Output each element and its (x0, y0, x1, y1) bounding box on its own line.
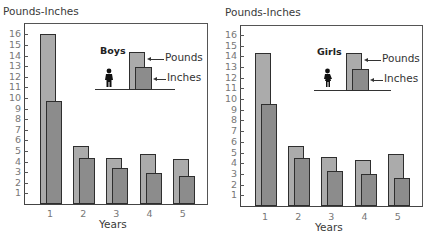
x-tick-label: 1 (258, 211, 272, 222)
y-tick (240, 67, 244, 68)
y-tick-label: 8 (223, 115, 237, 125)
y-tick-label: 2 (223, 180, 237, 190)
y-tick-label: 14 (223, 51, 237, 61)
y-tick (24, 183, 28, 184)
y-tick (240, 120, 244, 121)
y-tick (24, 109, 28, 110)
y-tick (240, 131, 244, 132)
y-tick (24, 162, 28, 163)
legend-title: Boys (100, 45, 126, 56)
y-tick (240, 99, 244, 100)
legend-pounds-arrow (150, 59, 164, 60)
y-tick (240, 56, 244, 57)
y-tick-label: 12 (223, 73, 237, 83)
y-tick (24, 34, 28, 35)
bar-inches (146, 173, 162, 204)
y-tick-label: 7 (7, 125, 21, 135)
y-tick-label: 12 (7, 72, 21, 82)
x-tick-label: 4 (143, 208, 157, 219)
legend-pounds-label: Pounds (382, 52, 420, 64)
y-tick (24, 45, 28, 46)
legend-inches-label: Inches (384, 72, 418, 84)
bar-inches (327, 171, 343, 206)
y-tick (24, 172, 28, 173)
x-axis-title: Years (315, 221, 343, 233)
y-tick (240, 78, 244, 79)
y-tick-label: 10 (7, 93, 21, 103)
bar-inches (394, 178, 410, 206)
bar-inches (361, 174, 377, 206)
y-tick (24, 140, 28, 141)
y-tick-label: 10 (223, 94, 237, 104)
legend-pounds-label: Pounds (165, 51, 203, 63)
legend-pounds-arrow (367, 60, 381, 61)
y-tick (24, 66, 28, 67)
bar-inches (261, 104, 277, 206)
legend-title: Girls (317, 46, 342, 57)
y-tick (24, 77, 28, 78)
y-tick (24, 130, 28, 131)
x-tick-label: 2 (291, 211, 305, 222)
y-tick-label: 11 (223, 83, 237, 93)
y-tick (240, 174, 244, 175)
y-tick-label: 1 (7, 188, 21, 198)
y-tick (240, 35, 244, 36)
legend-inches-arrow (156, 79, 166, 80)
x-tick-label: 2 (76, 208, 90, 219)
y-tick-label: 16 (223, 30, 237, 40)
y-tick (240, 195, 244, 196)
y-tick-label: 3 (223, 169, 237, 179)
y-tick-label: 13 (223, 62, 237, 72)
y-tick-label: 5 (223, 148, 237, 158)
boys-chart-panel: Pounds-Inches 12345678910111213141516 12… (0, 0, 215, 238)
x-tick-label: 1 (43, 208, 57, 219)
x-tick-label: 5 (391, 211, 405, 222)
y-axis-title: Pounds-Inches (3, 5, 79, 17)
y-tick-label: 6 (7, 135, 21, 145)
y-tick-label: 9 (223, 105, 237, 115)
y-tick-label: 16 (7, 29, 21, 39)
x-tick-label: 4 (358, 211, 372, 222)
y-tick-label: 2 (7, 178, 21, 188)
y-tick-label: 9 (7, 104, 21, 114)
y-tick-label: 15 (7, 40, 21, 50)
y-tick (240, 142, 244, 143)
y-tick (24, 119, 28, 120)
y-tick (24, 151, 28, 152)
girls-chart-panel: Pounds-Inches 12345678910111213141516 12… (215, 0, 430, 238)
girl-silhouette-icon (322, 68, 333, 88)
bar-inches (46, 101, 62, 204)
legend-inches-swatch (135, 67, 152, 90)
y-tick (240, 185, 244, 186)
y-tick-label: 3 (7, 167, 21, 177)
y-tick-label: 15 (223, 41, 237, 51)
y-tick-label: 13 (7, 61, 21, 71)
y-tick-label: 1 (223, 190, 237, 200)
y-tick-label: 4 (223, 158, 237, 168)
y-tick-label: 4 (7, 157, 21, 167)
y-tick (24, 56, 28, 57)
bar-inches (112, 168, 128, 204)
y-axis-title: Pounds-Inches (225, 6, 301, 18)
y-tick (240, 88, 244, 89)
y-tick (240, 153, 244, 154)
y-tick-label: 7 (223, 126, 237, 136)
y-tick (24, 87, 28, 88)
y-tick (240, 163, 244, 164)
y-tick-label: 5 (7, 146, 21, 156)
bar-inches (179, 176, 195, 204)
x-axis-title: Years (99, 218, 127, 230)
y-tick-label: 8 (7, 114, 21, 124)
y-tick (24, 193, 28, 194)
bar-inches (294, 158, 310, 206)
x-tick-label: 5 (176, 208, 190, 219)
y-tick-label: 14 (7, 51, 21, 61)
y-tick (24, 98, 28, 99)
legend-inches-label: Inches (167, 71, 201, 83)
y-tick (240, 110, 244, 111)
legend-inches-arrow (373, 80, 383, 81)
legend-inches-swatch (352, 69, 369, 91)
bar-inches (79, 158, 95, 204)
boy-silhouette-icon (104, 68, 114, 88)
y-tick-label: 6 (223, 137, 237, 147)
